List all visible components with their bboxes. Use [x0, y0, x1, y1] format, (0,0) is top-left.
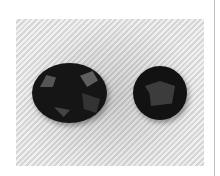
oval-gemstone: [32, 63, 107, 123]
facet: [40, 75, 56, 87]
facet: [80, 71, 98, 87]
vertical-divider: [214, 0, 215, 176]
facet: [54, 107, 70, 117]
round-gemstone: [133, 66, 187, 120]
gemstone-photo: [16, 19, 204, 166]
facet: [82, 93, 100, 113]
facet: [145, 81, 175, 106]
